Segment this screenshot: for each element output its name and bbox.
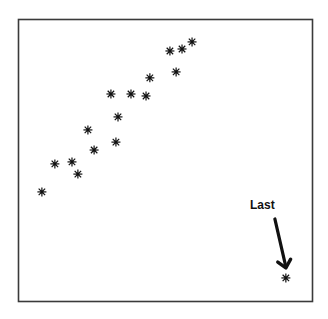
plot-frame	[19, 20, 313, 302]
data-point	[145, 73, 154, 82]
data-point	[67, 157, 76, 166]
marker-layer	[37, 37, 290, 282]
data-point	[106, 89, 115, 98]
data-point	[111, 138, 120, 147]
scatter-chart: Last	[0, 0, 328, 319]
data-point	[172, 67, 181, 76]
data-point	[73, 170, 82, 179]
data-point	[142, 91, 151, 100]
data-point	[37, 187, 46, 196]
data-point	[188, 37, 197, 46]
annotation-label-last: Last	[250, 198, 275, 212]
data-point	[83, 125, 92, 134]
data-point	[126, 89, 135, 98]
data-point	[50, 159, 59, 168]
annotation-layer: Last	[250, 198, 291, 268]
data-point	[114, 112, 123, 121]
annotation-arrow-shaft	[275, 219, 286, 267]
data-point	[90, 146, 99, 155]
data-point-last	[281, 273, 290, 282]
data-point	[178, 44, 187, 53]
data-point	[165, 46, 174, 55]
